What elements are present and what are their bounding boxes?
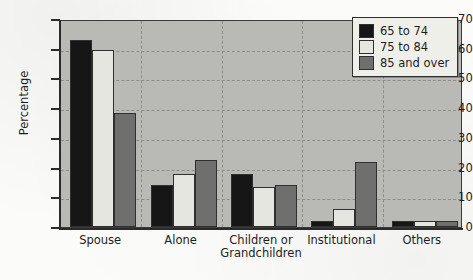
gridline [61,110,461,111]
bar [114,113,136,227]
bar [355,162,377,227]
x-axis-label: Others [372,234,472,247]
x-axis-label-line: Others [372,234,472,247]
x-axis-label-line: Grandchildren [211,247,311,260]
legend-item: 75 to 84 [359,39,449,55]
bar [231,174,253,227]
bar [195,160,217,227]
legend-swatch-icon [359,40,374,54]
y-axis-tick [51,19,60,21]
group-separator [302,21,303,227]
y-axis-tick [51,78,60,80]
y-axis-tick-label: 0 [427,220,473,234]
bar [311,221,333,227]
legend-swatch-icon [359,24,374,38]
legend-label: 75 to 84 [380,40,428,54]
y-axis-tick-label: 40 [427,101,473,115]
gridline [61,80,461,81]
legend-item: 65 to 74 [359,23,449,39]
bar [333,209,355,227]
bar [253,187,275,227]
legend-swatch-icon [359,56,374,70]
legend-label: 65 to 74 [380,24,428,38]
group-separator [141,21,142,227]
legend-item: 85 and over [359,55,449,71]
y-axis-tick [51,49,60,51]
bar [275,185,297,227]
y-axis-tick [51,168,60,170]
y-axis-title: Percentage [17,43,31,163]
y-axis-tick [51,108,60,110]
bar [151,185,173,227]
y-axis-tick [51,138,60,140]
bar [173,174,195,227]
x-axis-line [59,228,463,230]
y-axis-tick-label: 20 [427,161,473,175]
bar [70,40,92,227]
y-axis-tick [51,197,60,199]
y-axis-tick-label: 10 [427,190,473,204]
y-axis-tick [51,227,60,229]
bar [392,221,414,227]
y-axis-tick-label: 30 [427,131,473,145]
bar-chart: 706050403020100 Percentage SpouseAloneCh… [0,0,473,280]
bar [92,50,114,227]
legend-label: 85 and over [380,56,449,70]
legend: 65 to 7475 to 8485 and over [352,17,458,77]
group-separator [222,21,223,227]
